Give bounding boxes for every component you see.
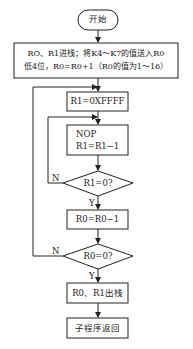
decision1-no-label: N	[52, 173, 59, 183]
dec-r0-label: R0=R0−1	[67, 214, 128, 225]
start-label: 开始	[78, 14, 118, 25]
init-line1: RO、R1进栈；将K4～K7的值送入R0	[14, 48, 178, 59]
decision1-label: R1=0?	[73, 178, 123, 189]
decision2-label: R0=0?	[73, 251, 123, 262]
decision2-no-label: N	[52, 246, 59, 256]
decision1-yes-label: Y	[89, 198, 95, 208]
return-label: 子程序返回	[67, 323, 128, 334]
nop-line2: R1=R1−1	[76, 141, 119, 152]
nop-line1: NOP	[76, 129, 96, 140]
decision2-yes-label: Y	[89, 271, 95, 281]
init-line2: 低4位，R0=R0+1（R0的值为1～16）	[14, 61, 178, 72]
set-r1-label: R1=0XFFFF	[67, 96, 128, 107]
pop-label: R0、R1出栈	[67, 288, 128, 299]
